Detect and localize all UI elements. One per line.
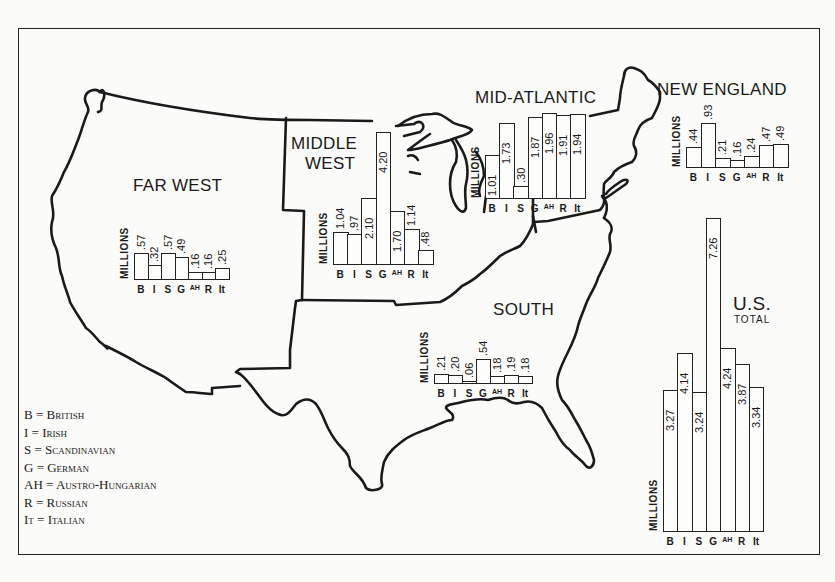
y-axis-label: MILLIONS	[318, 212, 329, 264]
category-label-s: S	[692, 536, 706, 547]
y-axis-label: MILLIONS	[470, 146, 481, 198]
bar-value-label: 3.87	[737, 384, 748, 405]
bar-value-label: .49	[775, 126, 786, 141]
bar-value-label: 1.14	[406, 204, 417, 225]
bar-b	[333, 232, 349, 265]
bar-value-label: .18	[492, 357, 503, 372]
bar-g	[706, 218, 722, 532]
category-label-g: G	[376, 269, 390, 280]
category-label-i: I	[347, 269, 361, 280]
bar-value-label: 3.34	[751, 407, 762, 428]
legend-entry-german: G = German	[24, 459, 157, 477]
bar-value-label: .97	[349, 216, 360, 231]
bar-r	[504, 375, 519, 384]
category-label-it: It	[749, 536, 763, 547]
chart-us-total: MILLIONS3.27B4.14I3.24S7.26G4.24AH3.87R3…	[663, 178, 763, 532]
bar-value-label: .16	[732, 142, 743, 157]
bar-i	[347, 234, 363, 265]
bar-it	[773, 144, 789, 168]
category-label-it: It	[773, 172, 788, 183]
northern-border	[100, 92, 372, 121]
category-label-r: R	[735, 536, 749, 547]
category-label-r: R	[504, 388, 518, 399]
category-label-i: I	[148, 284, 162, 295]
bar-ah	[744, 156, 760, 168]
legend-entry-austro-hungarian: AH = Austro-Hungarian	[24, 476, 157, 494]
bar-r	[759, 145, 775, 168]
bar-s	[715, 158, 731, 168]
category-label-ah: AH	[188, 284, 202, 291]
category-label-r: R	[404, 269, 418, 280]
bar-value-label: .06	[464, 363, 475, 378]
bar-value-label: .48	[420, 231, 431, 246]
bar-value-label: 1.04	[335, 208, 346, 229]
category-label-it: It	[518, 388, 532, 399]
bar-value-label: 4.24	[722, 368, 733, 389]
bar-g	[476, 359, 491, 384]
bar-value-label: .30	[516, 167, 527, 182]
bar-value-label: .47	[761, 127, 772, 142]
category-label-ah: AH	[542, 203, 556, 210]
chart-far-west: MILLIONS.57B.32I.57S.49G.16AH.16R.25It	[134, 213, 229, 280]
bar-i	[701, 123, 717, 168]
category-label-it: It	[215, 284, 229, 295]
category-label-r: R	[202, 284, 216, 295]
chart-south: MILLIONS.21B.20I.06S.54G.18AH.19R.18It	[434, 319, 532, 384]
y-axis-label: MILLIONS	[648, 479, 659, 531]
bar-value-label: .20	[450, 356, 461, 371]
chart-middle-west: MILLIONS1.04B.97I2.10S4.20G1.70AH1.14R.4…	[333, 92, 432, 265]
bar-value-label: 3.27	[665, 410, 676, 431]
category-label-g: G	[706, 536, 720, 547]
category-label-r: R	[556, 203, 570, 214]
category-label-ah: AH	[720, 536, 734, 543]
bar-value-label: .44	[688, 129, 699, 144]
bar-it	[418, 250, 434, 265]
bar-value-label: 1.73	[501, 142, 512, 163]
legend-entry-russian: R = Russian	[24, 494, 157, 512]
category-label-b: B	[134, 284, 148, 295]
bar-value-label: .49	[176, 239, 187, 254]
bar-it	[570, 114, 586, 199]
category-label-it: It	[418, 269, 432, 280]
bar-value-label: .57	[163, 235, 174, 250]
bar-value-label: .16	[203, 254, 214, 269]
category-label-g: G	[476, 388, 490, 399]
category-label-s: S	[462, 388, 476, 399]
bar-value-label: .19	[506, 357, 517, 372]
bar-r	[556, 115, 572, 199]
legend-entry-italian: It = Italian	[24, 511, 157, 529]
bar-value-label: 4.14	[679, 372, 690, 393]
category-label-i: I	[448, 388, 462, 399]
category-label-ah: AH	[390, 269, 404, 276]
bar-value-label: 1.94	[572, 133, 583, 154]
category-label-s: S	[361, 269, 375, 280]
y-axis-label: MILLIONS	[119, 227, 130, 279]
bar-value-label: 1.70	[392, 231, 403, 252]
bar-i	[448, 375, 463, 384]
category-label-ah: AH	[490, 388, 504, 395]
bar-b	[686, 147, 702, 168]
bar-s	[462, 381, 477, 384]
legend-entry-british: B = British	[24, 406, 157, 424]
category-label-s: S	[513, 203, 527, 214]
category-label-i: I	[677, 536, 691, 547]
region-label-far-west: FAR WEST	[133, 176, 222, 196]
bar-it	[518, 376, 533, 384]
category-label-b: B	[663, 536, 677, 547]
bar-value-label: .57	[136, 235, 147, 250]
bar-value-label: .54	[478, 341, 489, 356]
y-axis-label: MILLIONS	[419, 331, 430, 383]
bar-ah	[542, 113, 558, 199]
bar-it	[215, 268, 230, 280]
bar-value-label: 7.26	[708, 237, 719, 258]
bar-value-label: 1.87	[530, 136, 541, 157]
bar-value-label: 2.10	[364, 218, 375, 239]
category-label-b: B	[485, 203, 499, 214]
bar-value-label: 1.01	[487, 174, 498, 195]
category-label-i: I	[499, 203, 513, 214]
bar-value-label: .16	[190, 254, 201, 269]
bar-value-label: .21	[436, 356, 447, 371]
bar-value-label: 1.91	[558, 135, 569, 156]
legend-entry-irish: I = Irish	[24, 424, 157, 442]
east-coast	[590, 67, 660, 218]
